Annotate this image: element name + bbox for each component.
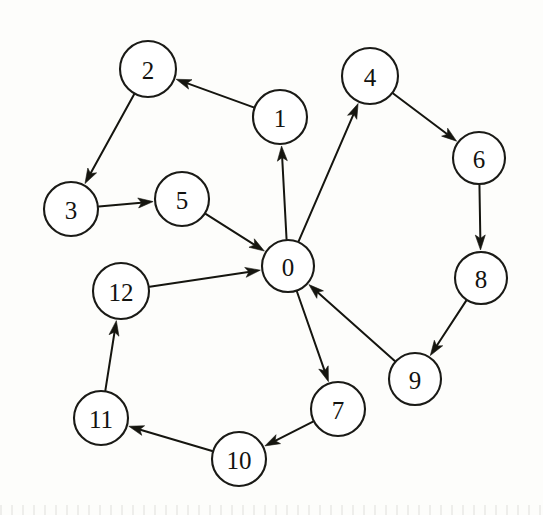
- arrowhead-icon: [442, 128, 457, 141]
- edge-12-to-0: [150, 267, 261, 286]
- edge-4-to-6: [393, 93, 456, 141]
- graph-node-5[interactable]: 5: [155, 172, 209, 226]
- edge-0-to-4: [299, 104, 358, 242]
- edge-0-to-7: [297, 291, 329, 381]
- node-label: 3: [65, 197, 78, 224]
- node-label: 10: [227, 447, 252, 474]
- edge-0-to-1: [277, 146, 287, 239]
- graph-node-4[interactable]: 4: [342, 48, 398, 104]
- node-label: 2: [142, 57, 155, 84]
- graph-node-1[interactable]: 1: [253, 90, 307, 144]
- graph-node-11[interactable]: 11: [74, 391, 128, 445]
- graph-node-8[interactable]: 8: [455, 252, 507, 304]
- edge-6-to-8: [475, 185, 485, 250]
- node-label: 9: [409, 367, 422, 394]
- node-label: 0: [282, 254, 295, 281]
- edge-2-to-3: [85, 94, 134, 183]
- graph-canvas: 0123456789101112: [0, 0, 543, 515]
- graph-node-9[interactable]: 9: [389, 353, 441, 405]
- node-label: 7: [332, 397, 345, 424]
- node-label: 8: [475, 266, 488, 293]
- graph-node-10[interactable]: 10: [212, 432, 266, 486]
- edge-9-to-0: [309, 285, 395, 361]
- graph-node-6[interactable]: 6: [453, 132, 505, 184]
- edge-5-to-0: [206, 214, 265, 251]
- node-label: 5: [176, 187, 189, 214]
- graph-node-7[interactable]: 7: [311, 382, 365, 436]
- graph-figure: 0123456789101112: [0, 0, 543, 515]
- arrowhead-icon: [249, 239, 264, 251]
- arrowhead-icon: [85, 168, 97, 184]
- graph-node-12[interactable]: 12: [93, 263, 149, 319]
- graph-node-2[interactable]: 2: [120, 41, 176, 97]
- edge-11-to-12: [105, 321, 119, 391]
- arrowhead-icon: [430, 340, 442, 355]
- graph-node-3[interactable]: 3: [44, 182, 98, 236]
- node-label: 6: [473, 146, 486, 173]
- node-label: 12: [109, 279, 134, 306]
- edge-1-to-2: [176, 79, 254, 107]
- edge-10-to-11: [129, 426, 212, 451]
- node-label: 11: [89, 406, 113, 433]
- graph-node-0[interactable]: 0: [262, 240, 314, 292]
- edge-8-to-9: [430, 301, 466, 356]
- nodes-layer: 0123456789101112: [44, 41, 507, 486]
- node-label: 1: [274, 105, 287, 132]
- node-label: 4: [364, 64, 377, 91]
- edge-7-to-10: [265, 422, 313, 446]
- edge-3-to-5: [99, 198, 153, 208]
